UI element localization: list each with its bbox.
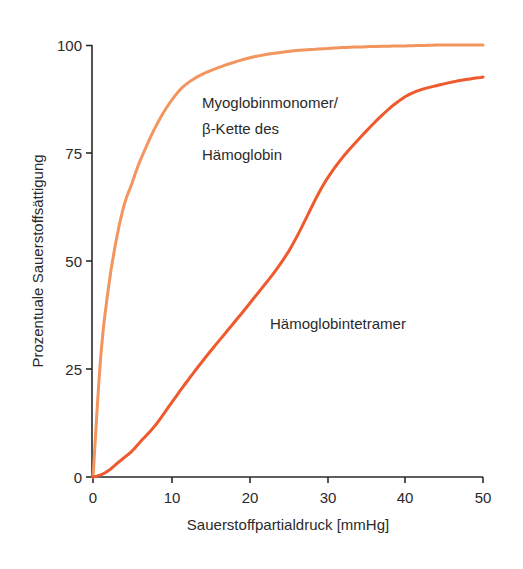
annotation-myoglobin-line-2: β-Kette des	[202, 120, 279, 137]
y-tick-0: 0	[74, 469, 82, 486]
x-tick-30: 30	[320, 489, 337, 506]
y-axis	[86, 45, 92, 478]
x-tick-0: 0	[89, 489, 97, 506]
y-tick-75: 75	[65, 145, 82, 162]
x-tick-labels: 0 10 20 30 40 50	[89, 489, 492, 506]
x-axis	[92, 477, 483, 483]
y-axis-title: Prozentuale Sauerstoffsättigung	[29, 154, 46, 367]
y-tick-50: 50	[65, 253, 82, 270]
y-tick-25: 25	[65, 361, 82, 378]
annotation-myoglobin-line-1: Myoglobinmonomer/	[202, 94, 339, 111]
x-tick-40: 40	[397, 489, 414, 506]
x-tick-10: 10	[164, 489, 181, 506]
myoglobin-annotation: Myoglobinmonomer/ β-Kette des Hämoglobin	[202, 94, 339, 163]
x-axis-title: Sauerstoffpartialdruck [mmHg]	[187, 516, 389, 533]
oxygen-saturation-chart: 100 75 50 25 0 0 10 20 30 40 50 Sauersto…	[0, 0, 523, 569]
annotation-myoglobin-line-3: Hämoglobin	[202, 146, 282, 163]
x-tick-50: 50	[475, 489, 492, 506]
annotation-hemoglobin: Hämoglobintetramer	[270, 315, 406, 332]
x-tick-20: 20	[242, 489, 259, 506]
y-tick-labels: 100 75 50 25 0	[57, 37, 82, 486]
y-tick-100: 100	[57, 37, 82, 54]
